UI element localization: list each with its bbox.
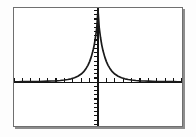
calculator-screen <box>0 0 196 137</box>
plot-area[interactable] <box>14 8 182 126</box>
plot-svg <box>14 8 182 126</box>
graph-frame[interactable] <box>13 7 183 127</box>
